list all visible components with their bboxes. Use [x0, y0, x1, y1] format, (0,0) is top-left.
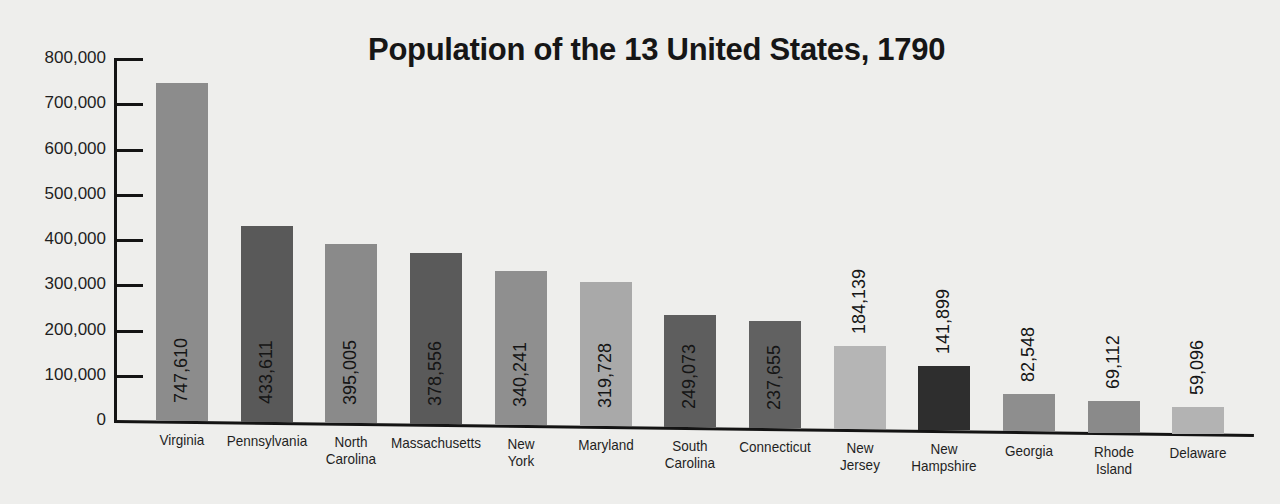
chart-title: Population of the 13 United States, 1790 [368, 32, 945, 68]
bar-value-label: 747,610 [171, 338, 192, 403]
category-label-line: Delaware [1149, 444, 1248, 461]
y-tick-label: 600,000 [0, 139, 106, 159]
y-tick-mark [116, 330, 143, 333]
y-tick-mark [116, 149, 143, 152]
bar-value-label: 395,005 [340, 340, 361, 405]
bar-georgia [1003, 394, 1055, 431]
y-tick-label: 800,000 [0, 48, 106, 68]
y-tick-label: 400,000 [0, 229, 106, 249]
x-category-label: Delaware [1149, 444, 1248, 461]
y-tick-label: 0 [0, 410, 106, 430]
y-tick-mark [116, 375, 143, 378]
bar-new-jersey [834, 346, 886, 429]
category-label-line: New [471, 435, 570, 452]
y-tick-label: 300,000 [0, 274, 106, 294]
bar-value-label: 319,728 [595, 343, 616, 408]
bar-rhode-island [1088, 401, 1140, 432]
y-tick-mark [116, 194, 143, 197]
category-label-line: Island [1064, 460, 1163, 477]
bar-value-label: 59,096 [1187, 340, 1208, 395]
bar-value-label: 69,112 [1103, 336, 1124, 390]
bar-delaware [1172, 407, 1224, 434]
population-bar-chart: Population of the 13 United States, 1790… [0, 0, 1280, 504]
bar-value-label: 237,655 [764, 345, 785, 410]
bar-new-hampshire [918, 366, 970, 430]
y-tick-mark [116, 239, 143, 242]
bar-value-label: 184,139 [849, 269, 870, 334]
bar-value-label: 378,556 [425, 341, 446, 406]
category-label-line: York [471, 452, 570, 469]
y-tick-label: 200,000 [0, 320, 106, 340]
category-label-line: Hampshire [895, 457, 994, 474]
bar-value-label: 141,899 [933, 289, 954, 354]
x-category-label: NewYork [471, 435, 570, 469]
bar-value-label: 340,241 [510, 342, 531, 407]
y-tick-mark [116, 58, 143, 61]
y-tick-mark [116, 284, 143, 287]
y-tick-mark [116, 103, 143, 106]
bar-value-label: 249,073 [679, 344, 700, 409]
category-label-line: Carolina [641, 454, 740, 471]
category-label-line: Carolina [302, 450, 401, 467]
y-tick-label: 100,000 [0, 365, 106, 385]
bar-value-label: 82,548 [1018, 327, 1039, 382]
y-tick-label: 700,000 [0, 93, 106, 113]
bar-value-label: 433,611 [256, 340, 277, 404]
y-tick-label: 500,000 [0, 184, 106, 204]
